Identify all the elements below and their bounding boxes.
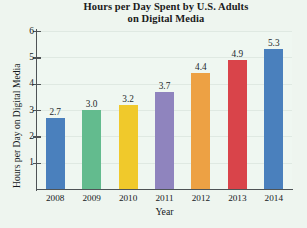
- bar-value-label: 4.4: [195, 62, 207, 72]
- y-tick-label: 6: [29, 25, 34, 37]
- bar-value-label: 4.9: [232, 49, 244, 59]
- bar-value-label: 5.3: [268, 38, 280, 48]
- y-tick-mark: [33, 163, 41, 164]
- bar-value-label: 3.7: [159, 81, 171, 91]
- y-axis-title: Hours per Day on Digital Media: [11, 64, 22, 188]
- gridline: [37, 31, 292, 32]
- y-tick-mark: [33, 31, 41, 32]
- x-axis-line: [36, 189, 293, 190]
- chart-figure: Hours per Day Spent by U.S. Adults on Di…: [0, 0, 307, 228]
- bar: 5.3: [264, 49, 283, 189]
- x-tick-label: 2012: [192, 193, 210, 203]
- bar: 4.9: [228, 60, 247, 189]
- chart-title-line-2: on Digital Media: [40, 13, 292, 25]
- y-tick-label: 3: [29, 104, 34, 116]
- y-tick-mark: [33, 84, 41, 85]
- x-axis-title: Year: [37, 206, 292, 217]
- y-tick-label: 5: [29, 51, 34, 63]
- bar: 2.7: [46, 118, 65, 189]
- y-tick-mark: [33, 57, 41, 58]
- y-tick-label: 4: [29, 77, 34, 89]
- x-tick-label: 2009: [82, 193, 100, 203]
- bar: 3.2: [119, 105, 138, 189]
- gridline: [37, 57, 292, 58]
- bar-value-label: 3.0: [86, 99, 98, 109]
- bar: 4.4: [191, 73, 210, 189]
- y-tick-label: 2: [29, 130, 34, 142]
- chart-title-line-1: Hours per Day Spent by U.S. Adults: [84, 1, 249, 12]
- y-tick-label: 1: [29, 156, 34, 168]
- bar: 3.7: [155, 92, 174, 189]
- bar-value-label: 3.2: [122, 94, 134, 104]
- y-tick-mark: [33, 110, 41, 111]
- y-axis-title-container: Hours per Day on Digital Media: [0, 28, 14, 190]
- y-tick-mark: [33, 136, 41, 137]
- bar-value-label: 2.7: [49, 107, 61, 117]
- x-tick-label: 2011: [155, 193, 173, 203]
- x-tick-label: 2010: [119, 193, 137, 203]
- x-tick-label: 2008: [46, 193, 64, 203]
- x-tick-label: 2013: [228, 193, 246, 203]
- bar: 3.0: [82, 110, 101, 189]
- chart-title: Hours per Day Spent by U.S. Adults on Di…: [40, 1, 292, 25]
- x-tick-label: 2014: [265, 193, 283, 203]
